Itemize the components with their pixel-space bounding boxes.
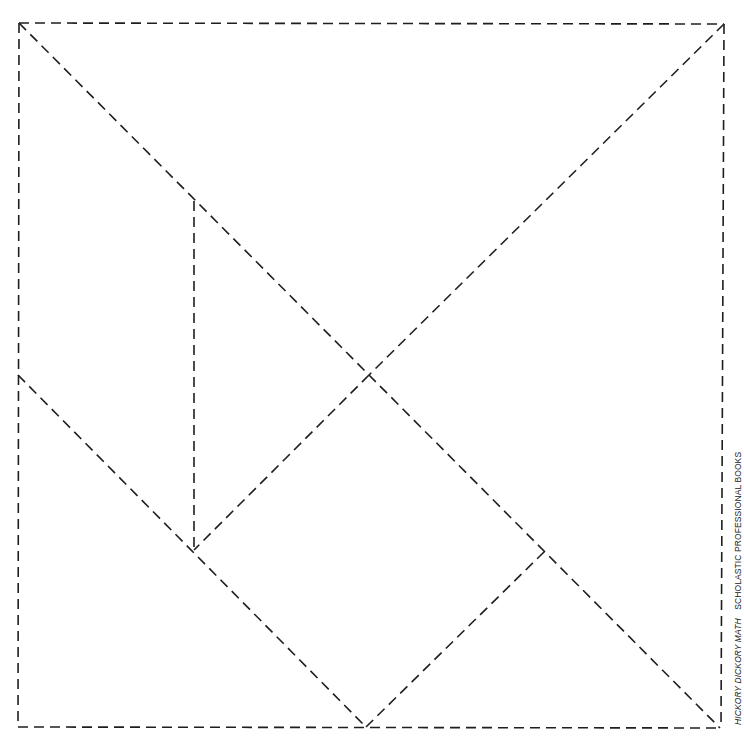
cut-line-diagonal-upper-right-to-center [369, 24, 724, 375]
cut-line-right-edge [721, 24, 724, 728]
tangram-cut-lines [18, 23, 724, 728]
cut-line-left-mid-to-bottom [18, 375, 366, 727]
cut-line-bottom-to-right-junction [366, 551, 545, 727]
credit-publisher: SCHOLASTIC PROFESSIONAL BOOKS [733, 452, 743, 610]
tangram-pattern [0, 0, 744, 737]
cut-line-center-to-lower-left-junction [194, 375, 369, 550]
credit-text: HICKORY DICKORY MATH SCHOLASTIC PROFESSI… [733, 452, 743, 725]
credit-title: HICKORY DICKORY MATH [733, 618, 743, 725]
cut-line-top-edge [19, 23, 724, 24]
cut-line-bottom-edge [18, 727, 721, 728]
